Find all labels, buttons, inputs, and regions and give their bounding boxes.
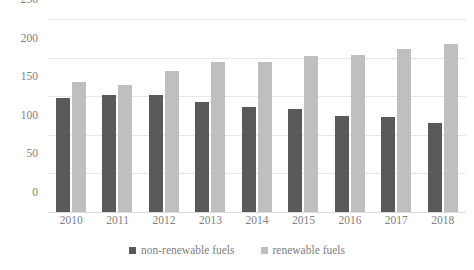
bar-2010-non-renewable-fuels [56,98,70,212]
bar-2017-non-renewable-fuels [381,117,395,212]
legend-label: non-renewable fuels [141,244,235,256]
bar-2016-renewable-fuels [351,55,365,212]
bar-2018-renewable-fuels [444,44,458,212]
legend-swatch-icon [129,247,136,254]
bar-2014-non-renewable-fuels [242,107,256,212]
legend-item-renewable-fuels[interactable]: renewable fuels [261,244,345,256]
y-axis: 050100150200250 [0,0,44,232]
x-axis-tick-label: 2011 [94,214,140,227]
x-axis: 201020112012201320142015201620172018 [48,214,466,232]
bar-2014-renewable-fuels [258,62,272,212]
bar-2017-renewable-fuels [397,49,411,212]
legend-swatch-icon [261,247,268,254]
bar-group-2017 [373,19,419,212]
x-axis-tick-label: 2018 [420,214,466,227]
x-axis-tick-label: 2014 [234,214,280,227]
bar-2010-renewable-fuels [72,82,86,212]
x-axis-tick-label: 2013 [187,214,233,227]
x-axis-tick-label: 2015 [280,214,326,227]
x-axis-tick-label: 2017 [373,214,419,227]
bar-2012-renewable-fuels [165,71,179,212]
y-axis-tick-label: 50 [27,148,39,160]
bar-2015-non-renewable-fuels [288,109,302,212]
bar-group-2018 [420,19,466,212]
bar-group-2014 [234,19,280,212]
bar-2018-non-renewable-fuels [428,123,442,212]
bar-group-2010 [48,19,94,212]
bars-layer [48,19,466,212]
x-axis-tick-label: 2010 [48,214,94,227]
bar-2012-non-renewable-fuels [149,95,163,212]
chart-legend: non-renewable fuelsrenewable fuels [0,244,474,256]
bar-group-2013 [187,19,233,212]
y-axis-tick-label: 100 [21,110,38,122]
bar-2011-renewable-fuels [118,85,132,212]
y-axis-tick-label: 0 [32,187,38,199]
bar-chart: 050100150200250 201020112012201320142015… [0,0,474,270]
legend-item-non-renewable-fuels[interactable]: non-renewable fuels [129,244,235,256]
bar-2013-renewable-fuels [211,62,225,212]
gridline-0 [48,212,466,213]
bar-group-2012 [141,19,187,212]
bar-group-2016 [327,19,373,212]
bar-group-2011 [94,19,140,212]
bar-2011-non-renewable-fuels [102,95,116,212]
y-axis-tick-label: 150 [21,71,38,83]
y-axis-tick-label: 200 [21,33,38,45]
bar-group-2015 [280,19,326,212]
y-axis-tick-label: 250 [21,0,38,6]
bar-2016-non-renewable-fuels [335,116,349,213]
bar-2013-non-renewable-fuels [195,102,209,212]
x-axis-tick-label: 2016 [327,214,373,227]
bar-2015-renewable-fuels [304,56,318,212]
x-axis-tick-label: 2012 [141,214,187,227]
legend-label: renewable fuels [273,244,345,256]
